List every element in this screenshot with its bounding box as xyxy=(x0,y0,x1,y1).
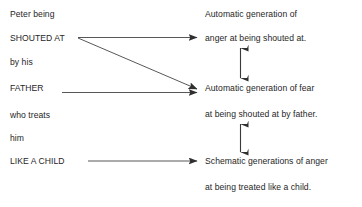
connector-layer xyxy=(0,0,362,207)
cut-off-caption-fragment xyxy=(8,198,354,207)
diagram-canvas: Peter being SHOUTED AT by his FATHER who… xyxy=(0,0,362,207)
connector-shouted-at-to-fear xyxy=(78,38,197,89)
